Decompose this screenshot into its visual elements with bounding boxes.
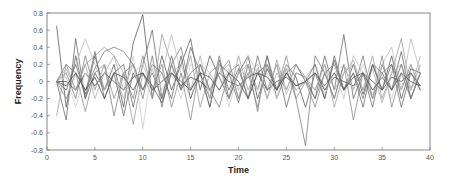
y-tick-label: -0.4	[31, 112, 43, 119]
x-tick-label: 0	[45, 154, 49, 161]
y-tick-label: 0.6	[33, 27, 43, 34]
x-tick-label: 15	[187, 154, 195, 161]
y-tick-label: -0.2	[31, 95, 43, 102]
y-tick-label: 0.4	[33, 44, 43, 51]
x-axis-ticks: 0510152025303540	[45, 147, 434, 161]
y-axis-title: Frequency	[13, 59, 23, 105]
line-chart: 0510152025303540 0.80.60.40.20-0.2-0.4-0…	[0, 0, 450, 184]
x-tick-label: 35	[378, 154, 386, 161]
x-tick-label: 40	[426, 154, 434, 161]
y-tick-label: 0	[39, 78, 43, 85]
y-tick-label: 0.8	[33, 10, 43, 17]
x-tick-label: 5	[93, 154, 97, 161]
y-tick-label: -0.8	[31, 147, 43, 154]
x-axis-title: Time	[228, 165, 249, 175]
x-tick-label: 30	[330, 154, 338, 161]
x-tick-label: 10	[139, 154, 147, 161]
x-tick-label: 25	[282, 154, 290, 161]
plot-area	[57, 15, 421, 146]
y-tick-label: 0.2	[33, 61, 43, 68]
x-tick-label: 20	[235, 154, 243, 161]
y-tick-label: -0.6	[31, 129, 43, 136]
